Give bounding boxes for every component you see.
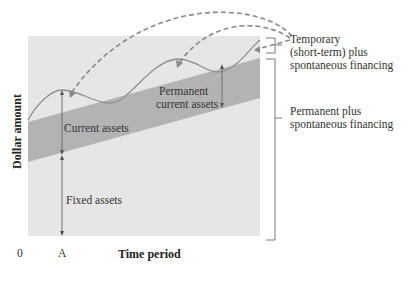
- permanent-current-assets-label-line2: current assets: [156, 98, 218, 111]
- financing-diagram: [0, 0, 408, 289]
- temporary-financing-label-line1: Temporary: [290, 33, 340, 46]
- x-marker-a-label: A: [58, 247, 66, 260]
- permanent-financing-label-line2: spontaneous financing: [290, 118, 393, 131]
- permanent-current-assets-label-line1: Permanent: [159, 85, 208, 98]
- temporary-financing-label-line3: spontaneous financing: [290, 59, 393, 72]
- permanent-financing-bracket: [266, 59, 275, 240]
- temporary-financing-label-line2: (short-term) plus: [290, 46, 368, 59]
- y-axis-label: Dollar amount: [10, 87, 25, 177]
- dashed-arrow-to-peak-3: [258, 40, 290, 49]
- current-assets-label: Current assets: [64, 122, 129, 135]
- x-origin-label: 0: [17, 247, 23, 260]
- fixed-assets-label: Fixed assets: [66, 194, 122, 207]
- x-axis-label: Time period: [118, 248, 181, 261]
- permanent-financing-label-line1: Permanent plus: [290, 105, 361, 118]
